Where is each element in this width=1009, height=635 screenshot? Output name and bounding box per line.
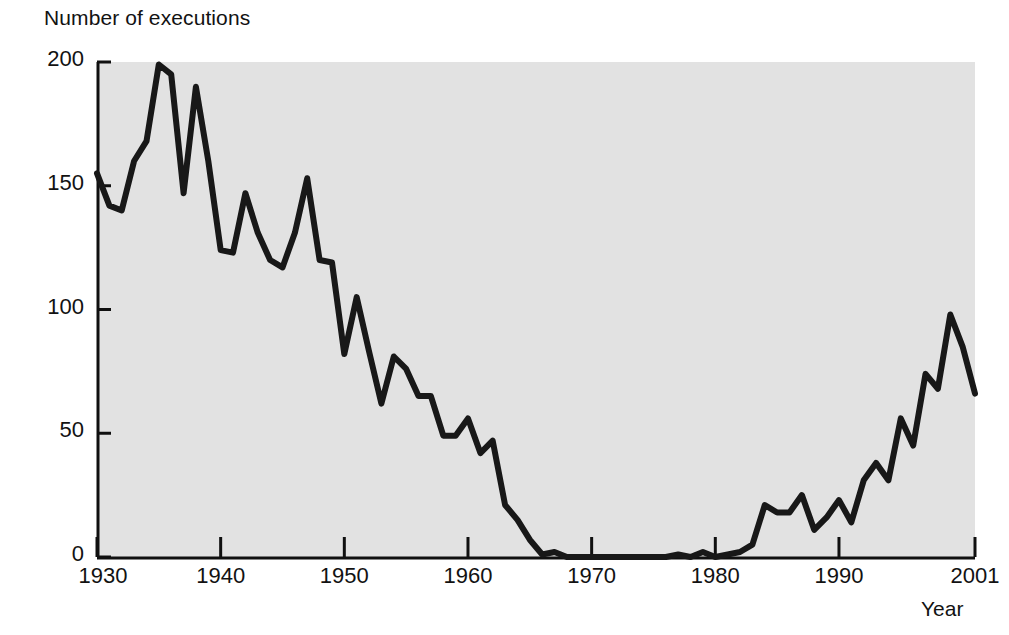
y-tick-100: 100 [14, 294, 84, 320]
x-tick-1970: 1970 [547, 563, 637, 589]
x-tick-1990: 1990 [794, 563, 884, 589]
y-tick-50: 50 [14, 417, 84, 443]
x-tick-1980: 1980 [670, 563, 760, 589]
x-tick-2001: 2001 [930, 563, 1009, 589]
plot-background [97, 62, 975, 557]
execution-line-chart: Number of executions 050100150200 193019… [0, 0, 1009, 635]
x-tick-1950: 1950 [299, 563, 389, 589]
x-tick-1930: 1930 [58, 563, 148, 589]
x-tick-1940: 1940 [176, 563, 266, 589]
chart-canvas [0, 0, 1009, 635]
x-axis-title: Year [921, 597, 963, 621]
x-tick-1960: 1960 [423, 563, 513, 589]
y-tick-150: 150 [14, 170, 84, 196]
y-tick-200: 200 [14, 46, 84, 72]
